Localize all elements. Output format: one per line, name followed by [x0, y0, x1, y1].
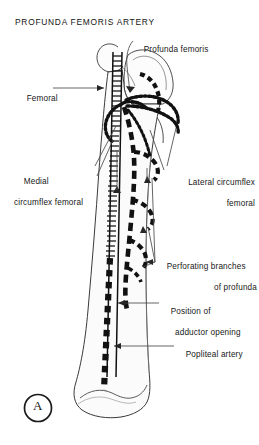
arrowhead-femoral: [97, 85, 104, 91]
femoral-shaft-and-condyles: [74, 70, 160, 418]
label-lateral-circumflex-femoral: Lateral circumflex femoral: [165, 168, 255, 229]
femoral-head-and-neck: [97, 44, 123, 72]
panel-letter: A: [33, 401, 43, 411]
label-medial-cx-line1: Medial: [24, 177, 49, 186]
leader-lateral-cx-b: [167, 128, 176, 166]
label-medial-circumflex-femoral: Medial circumflex femoral: [14, 167, 83, 228]
label-adductor-line1: Position of: [171, 307, 211, 316]
label-perforating-line2: of profunda: [157, 283, 257, 293]
label-perforating-line1: Perforating branches: [167, 262, 246, 271]
label-popliteal-line1: Popliteal artery: [186, 350, 243, 359]
label-lateral-cx-line1: Lateral circumflex: [188, 178, 255, 187]
label-femoral-line1: Femoral: [27, 94, 58, 103]
label-femoral: Femoral: [17, 84, 58, 115]
label-medial-cx-line2: circumflex femoral: [14, 198, 83, 208]
label-popliteal-artery: Popliteal artery: [176, 340, 243, 371]
label-profunda-femoris: Profunda femoris: [134, 35, 208, 66]
label-lateral-cx-line2: femoral: [165, 199, 255, 209]
label-adductor-line2: adductor opening: [161, 328, 257, 338]
label-profunda-femoris-line1: Profunda femoris: [144, 45, 209, 54]
figure-canvas: PROFUNDA FEMORIS ARTERY: [0, 0, 259, 445]
